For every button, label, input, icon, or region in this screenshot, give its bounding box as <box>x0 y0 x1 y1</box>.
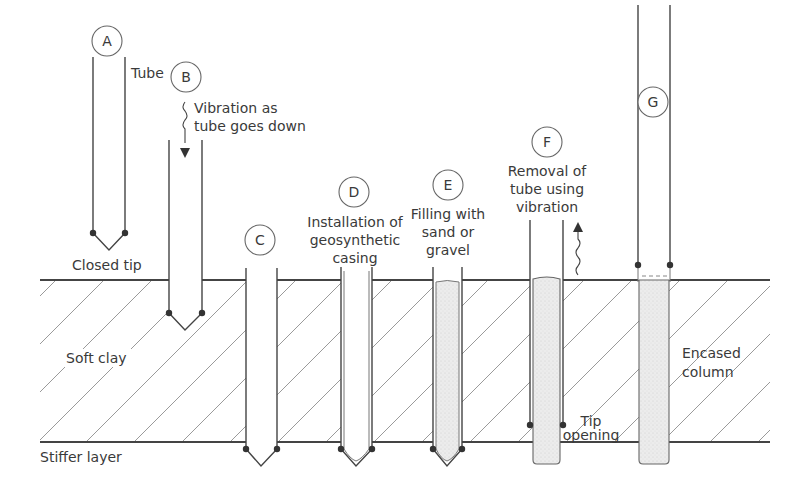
stage-f-caption-3: vibration <box>516 199 578 215</box>
stage-b-tube <box>166 140 205 330</box>
stage-e-label: E <box>444 177 453 193</box>
stage-g-label: G <box>648 94 659 110</box>
stage-c-label: C <box>255 232 265 248</box>
soft-clay-label: Soft clay <box>66 350 127 366</box>
stage-d-caption-2: geosynthetic <box>310 232 401 248</box>
installation-diagram: A Tube Closed tip B Vibration as tube go… <box>0 0 809 490</box>
stage-b-caption-2: tube goes down <box>194 118 306 134</box>
stage-e-caption-2: sand or <box>422 224 475 240</box>
closed-tip-label: Closed tip <box>72 257 142 273</box>
arrow-up-icon <box>573 222 583 232</box>
stage-g-column <box>635 5 673 464</box>
stage-d-label: D <box>349 184 360 200</box>
stage-c-tube <box>243 268 280 466</box>
tip-opening-label-2: opening <box>563 427 620 443</box>
encased-column-label-1: Encased <box>682 345 741 361</box>
stage-f-tube <box>527 220 566 464</box>
stiffer-layer-label: Stiffer layer <box>40 449 122 465</box>
stage-e-tube <box>430 267 465 466</box>
tube-label: Tube <box>130 65 164 81</box>
stage-d-tube <box>338 267 375 466</box>
vibration-up-icon <box>576 232 580 275</box>
stage-e-caption-1: Filling with <box>411 206 486 222</box>
stage-f-caption-2: tube using <box>510 181 584 197</box>
stage-f-label: F <box>543 134 551 150</box>
stage-a-tube <box>90 57 128 250</box>
stage-e-caption-3: gravel <box>426 242 470 258</box>
stage-d-caption-1: Installation of <box>307 214 404 230</box>
stage-f-caption-1: Removal of <box>508 163 588 179</box>
stage-a-label: A <box>102 33 112 49</box>
stage-b-caption-1: Vibration as <box>194 100 278 116</box>
stage-d-caption-3: casing <box>332 250 377 266</box>
encased-column-label-2: column <box>682 364 734 380</box>
vibration-down-icon <box>183 102 187 143</box>
stage-b-label: B <box>181 69 191 85</box>
